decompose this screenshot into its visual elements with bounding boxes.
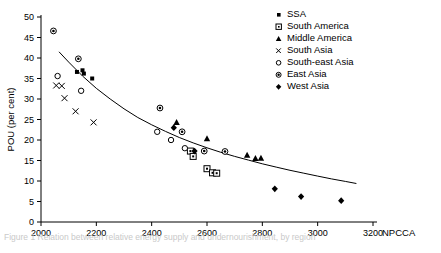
legend-label: Middle America bbox=[287, 32, 352, 44]
open-square-dot-icon bbox=[272, 22, 284, 31]
legend-item-south-east-asia: South-east Asia bbox=[272, 56, 354, 68]
open-circle-icon bbox=[272, 58, 284, 67]
data-point bbox=[75, 70, 79, 74]
data-point bbox=[157, 105, 163, 111]
data-point bbox=[59, 83, 65, 89]
data-point bbox=[75, 56, 81, 62]
data-point bbox=[179, 129, 185, 135]
data-point bbox=[338, 197, 344, 204]
y-axis-title: POU (per cent) bbox=[5, 88, 16, 152]
legend-item-south-asia: South Asia bbox=[272, 44, 354, 56]
y-tick-label: 25 bbox=[24, 115, 34, 125]
legend-label: SSA bbox=[287, 8, 306, 20]
scatter-plot: 0510152025303540455020002200240026002800… bbox=[0, 0, 441, 253]
legend-item-east-asia: East Asia bbox=[272, 68, 354, 80]
filled-triangle-icon bbox=[272, 34, 284, 43]
data-point bbox=[78, 88, 83, 93]
chart-figure: 0510152025303540455020002200240026002800… bbox=[0, 0, 441, 253]
data-point bbox=[190, 153, 196, 159]
data-point bbox=[173, 119, 179, 125]
data-point bbox=[201, 148, 207, 154]
data-point bbox=[258, 155, 264, 161]
legend-item-ssa: SSA bbox=[272, 8, 354, 20]
figure-caption: Figure 1 Relation between relative energ… bbox=[4, 232, 437, 242]
data-point bbox=[51, 28, 57, 34]
legend-label: West Asia bbox=[287, 80, 329, 92]
x-icon bbox=[272, 46, 284, 55]
data-point bbox=[55, 73, 60, 78]
filled-square-icon bbox=[272, 10, 284, 19]
data-point bbox=[53, 82, 59, 88]
legend-item-west-asia: West Asia bbox=[272, 80, 354, 92]
y-tick-label: 40 bbox=[24, 53, 34, 63]
data-point bbox=[62, 95, 68, 101]
y-tick-label: 5 bbox=[29, 197, 34, 207]
y-tick-label: 10 bbox=[24, 176, 34, 186]
data-point bbox=[244, 152, 250, 158]
legend-label: South-east Asia bbox=[287, 56, 354, 68]
data-point bbox=[73, 108, 79, 114]
data-point bbox=[252, 155, 258, 161]
data-point bbox=[91, 119, 97, 125]
filled-diamond-icon bbox=[272, 82, 284, 91]
y-tick-label: 30 bbox=[24, 94, 34, 104]
legend-label: South America bbox=[287, 20, 349, 32]
data-point bbox=[222, 149, 228, 155]
y-tick-label: 15 bbox=[24, 156, 34, 166]
y-tick-label: 0 bbox=[29, 217, 34, 227]
y-tick-label: 50 bbox=[24, 12, 34, 22]
y-tick-label: 45 bbox=[24, 33, 34, 43]
data-point bbox=[182, 146, 187, 151]
data-point bbox=[298, 193, 304, 200]
legend-item-south-america: South America bbox=[272, 20, 354, 32]
y-tick-label: 35 bbox=[24, 74, 34, 84]
data-point bbox=[214, 170, 220, 176]
data-point bbox=[272, 185, 278, 192]
chart-legend: SSA South America Middle America South A… bbox=[272, 8, 354, 92]
legend-label: South Asia bbox=[287, 44, 332, 56]
y-tick-label: 20 bbox=[24, 135, 34, 145]
data-point bbox=[168, 137, 173, 142]
legend-item-middle-america: Middle America bbox=[272, 32, 354, 44]
data-point bbox=[171, 124, 177, 131]
circle-dot-icon bbox=[272, 70, 284, 79]
data-point bbox=[90, 77, 94, 81]
data-point bbox=[155, 129, 160, 134]
data-point bbox=[204, 135, 210, 141]
legend-label: East Asia bbox=[287, 68, 327, 80]
data-point bbox=[82, 72, 86, 76]
